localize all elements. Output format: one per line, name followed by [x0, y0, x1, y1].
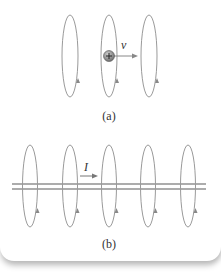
loop-b1 [23, 145, 38, 227]
caption-a: (a) [89, 109, 129, 124]
velocity-arrow-icon [114, 54, 138, 59]
part-b-loops [23, 145, 196, 227]
loop-b4 [141, 145, 156, 227]
wire [12, 184, 206, 189]
caption-b: (b) [89, 237, 129, 252]
loop-a3 [141, 15, 157, 97]
current-label: I [84, 160, 88, 175]
current-arrow-icon [80, 174, 98, 179]
part-b-loop-arrows [36, 208, 198, 213]
loop-b2 [63, 145, 78, 227]
velocity-label: v [121, 38, 126, 53]
part-a-loop-arrows [76, 78, 159, 83]
positive-charge-icon [104, 51, 115, 62]
loop-a1 [62, 15, 78, 97]
figure-drawing [0, 0, 221, 277]
loop-b3 [102, 145, 117, 227]
loop-b5 [181, 145, 196, 227]
